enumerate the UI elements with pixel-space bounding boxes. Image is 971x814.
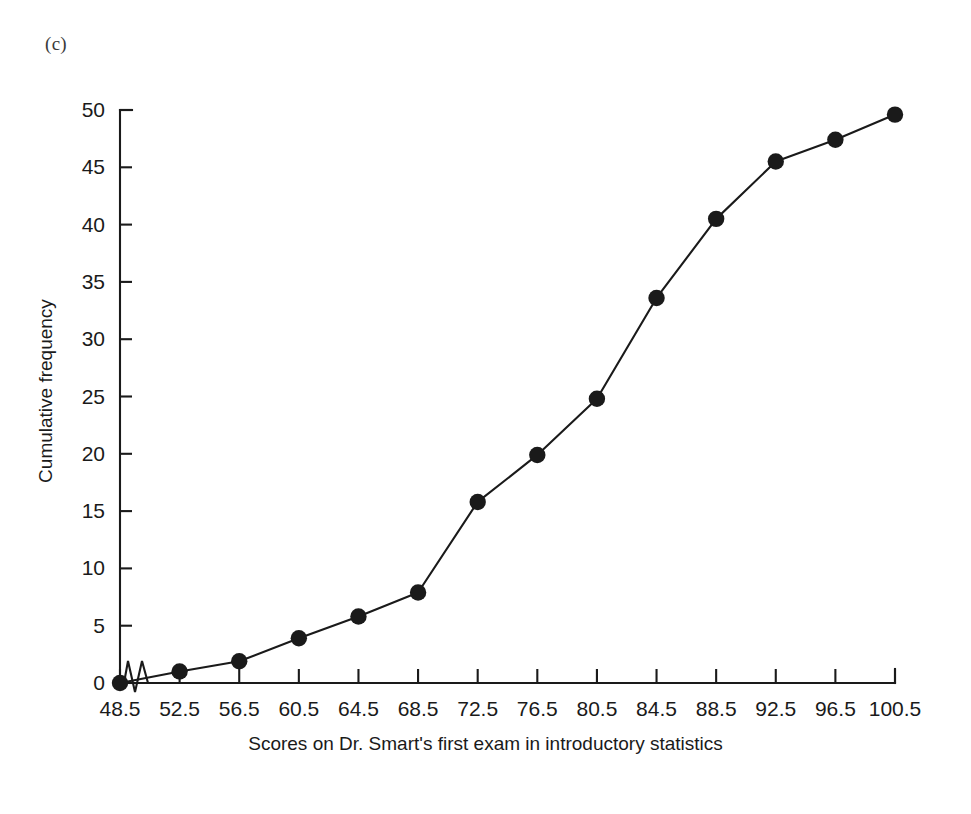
y-tick-marks xyxy=(120,110,132,683)
data-point-marker xyxy=(410,584,426,600)
data-point-markers xyxy=(112,106,903,691)
data-point-marker xyxy=(589,391,605,407)
data-point-marker xyxy=(529,447,545,463)
data-point-marker xyxy=(350,608,366,624)
axes-group xyxy=(120,110,895,692)
data-point-marker xyxy=(648,290,664,306)
x-axis-break-icon xyxy=(124,661,148,692)
figure-container: (c) Cumulative frequency Scores on Dr. S… xyxy=(0,0,971,814)
data-point-marker xyxy=(887,106,903,122)
data-point-marker xyxy=(768,153,784,169)
data-point-marker xyxy=(469,494,485,510)
data-point-marker xyxy=(231,653,247,669)
data-point-marker xyxy=(291,630,307,646)
data-point-marker xyxy=(708,211,724,227)
data-point-marker xyxy=(171,663,187,679)
data-point-marker xyxy=(112,675,128,691)
cumulative-frequency-line xyxy=(120,115,895,683)
chart-plot-area xyxy=(0,0,971,814)
data-point-marker xyxy=(827,132,843,148)
x-tick-marks xyxy=(120,669,895,683)
